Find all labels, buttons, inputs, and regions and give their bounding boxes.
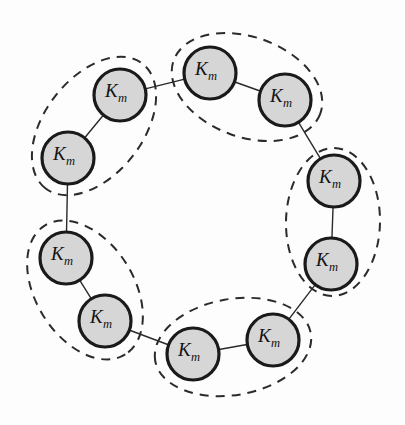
node-label-main: K bbox=[177, 339, 192, 360]
node-label-subscript: m bbox=[191, 350, 200, 364]
diagram-canvas: KmKmKmKmKmKmKmKmKmKm bbox=[0, 0, 405, 425]
ring-network-svg: KmKmKmKmKmKmKmKmKmKm bbox=[0, 0, 405, 425]
edge-n10-n1[interactable] bbox=[144, 79, 185, 89]
nodes-layer: KmKmKmKmKmKmKmKmKmKm bbox=[40, 47, 360, 380]
graph-node-n6[interactable]: Km bbox=[167, 328, 219, 380]
node-label-subscript: m bbox=[66, 154, 75, 168]
edge-n5-n6[interactable] bbox=[218, 344, 249, 349]
node-label-main: K bbox=[104, 80, 119, 101]
node-label-subscript: m bbox=[271, 336, 280, 350]
graph-node-n2[interactable]: Km bbox=[259, 74, 311, 126]
node-label-subscript: m bbox=[103, 317, 112, 331]
node-label-main: K bbox=[315, 249, 330, 270]
edge-n1-n2[interactable] bbox=[234, 81, 262, 91]
graph-node-n7[interactable]: Km bbox=[79, 295, 131, 347]
node-label-main: K bbox=[52, 143, 67, 164]
graph-node-n8[interactable]: Km bbox=[40, 232, 92, 284]
node-label-subscript: m bbox=[283, 96, 292, 110]
node-label-subscript: m bbox=[64, 254, 73, 268]
edge-n9-n10[interactable] bbox=[84, 114, 104, 138]
node-label-main: K bbox=[269, 85, 284, 106]
edge-n4-n5[interactable] bbox=[288, 284, 316, 320]
edge-n6-n7[interactable] bbox=[128, 330, 169, 345]
node-label-subscript: m bbox=[208, 69, 217, 83]
node-label-main: K bbox=[318, 166, 333, 187]
node-label-main: K bbox=[89, 306, 104, 327]
node-label-subscript: m bbox=[329, 260, 338, 274]
node-label-subscript: m bbox=[118, 91, 127, 105]
graph-node-n10[interactable]: Km bbox=[94, 69, 146, 121]
graph-node-n5[interactable]: Km bbox=[247, 314, 299, 366]
graph-node-n9[interactable]: Km bbox=[42, 132, 94, 184]
graph-node-n1[interactable]: Km bbox=[184, 47, 236, 99]
edge-n2-n3[interactable] bbox=[298, 121, 321, 159]
edge-n8-n9[interactable] bbox=[66, 183, 67, 233]
edge-n3-n4[interactable] bbox=[332, 206, 333, 239]
edge-n7-n8[interactable] bbox=[79, 279, 92, 299]
graph-node-n4[interactable]: Km bbox=[305, 238, 357, 290]
node-label-main: K bbox=[194, 58, 209, 79]
node-label-subscript: m bbox=[332, 177, 341, 191]
node-label-main: K bbox=[50, 243, 65, 264]
node-label-main: K bbox=[257, 325, 272, 346]
graph-node-n3[interactable]: Km bbox=[308, 155, 360, 207]
